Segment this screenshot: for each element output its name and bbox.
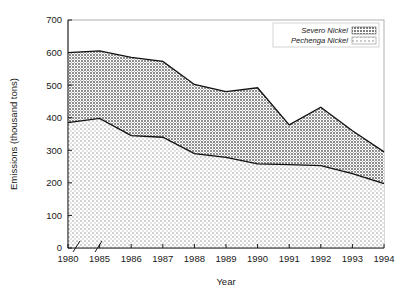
x-tick-label: 1988: [184, 253, 205, 264]
legend-swatch-pechenga: [352, 37, 376, 44]
legend-swatch-severo: [352, 27, 376, 34]
x-tick-label: 1993: [342, 253, 363, 264]
chart-container: 0100200300400500600700 19801985198619871…: [0, 0, 416, 294]
y-tick-label: 600: [46, 47, 62, 58]
x-tick-label: 1987: [152, 253, 173, 264]
y-tick-label: 400: [46, 112, 62, 123]
legend-label-severo: Severo Nickel: [301, 26, 348, 35]
x-tick-label: 1985: [89, 253, 110, 264]
y-tick-label: 200: [46, 177, 62, 188]
y-tick-label: 500: [46, 80, 62, 91]
y-axis-title: Emissions (thousand tons): [8, 78, 19, 190]
y-tick-label: 100: [46, 210, 62, 221]
legend: Severo Nickel Pechenga Nickel: [273, 23, 379, 47]
y-tick-label: 0: [57, 242, 62, 253]
x-tick-label: 1992: [310, 253, 331, 264]
x-tick-label: 1989: [215, 253, 236, 264]
x-tick-label: 1991: [279, 253, 300, 264]
x-axis-title: Year: [216, 276, 235, 287]
x-tick-label: 1990: [247, 253, 268, 264]
y-tick-label: 700: [46, 14, 62, 25]
legend-label-pechenga: Pechenga Nickel: [291, 36, 348, 45]
x-tick-label: 1994: [373, 253, 394, 264]
emissions-stacked-area-chart: 0100200300400500600700 19801985198619871…: [0, 0, 416, 294]
x-tick-label: 1980: [57, 253, 78, 264]
x-tick-label: 1986: [121, 253, 142, 264]
y-tick-label: 300: [46, 145, 62, 156]
